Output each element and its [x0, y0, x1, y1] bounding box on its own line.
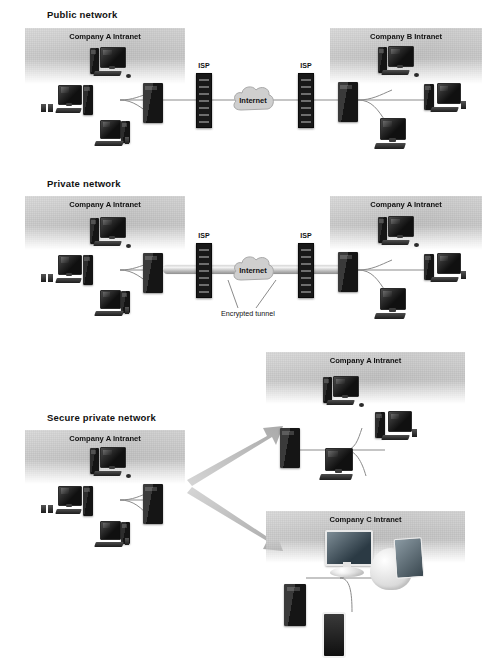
server-company-a-private-right [338, 252, 358, 292]
internet-cloud-public: Internet [230, 84, 276, 116]
internet-label-public: Internet [230, 96, 276, 105]
imac-side-panel-company-c [394, 537, 425, 579]
encrypted-tunnel-label: Encrypted tunnel [221, 309, 275, 318]
isp-rack-right-public [298, 73, 314, 128]
isp-label-right-public: ISP [300, 62, 311, 69]
imac-base-company-c [330, 567, 364, 577]
server-company-c [284, 584, 306, 626]
panel-label-company-b-public: Company B Intranet [330, 32, 482, 41]
isp-rack-left-public [196, 73, 212, 128]
server-company-a-remote [280, 428, 300, 468]
isp-label-left-public: ISP [198, 62, 209, 69]
server-company-a-public [143, 83, 163, 123]
imac-tower-company-c [322, 612, 346, 658]
diagram-canvas: Public network Company A Intranet [0, 0, 484, 658]
panel-label-company-a-private-right: Company A Intranet [330, 200, 482, 209]
server-company-b-public [338, 82, 358, 122]
wires-company-c [0, 500, 484, 658]
imac-display-company-c [325, 530, 373, 566]
